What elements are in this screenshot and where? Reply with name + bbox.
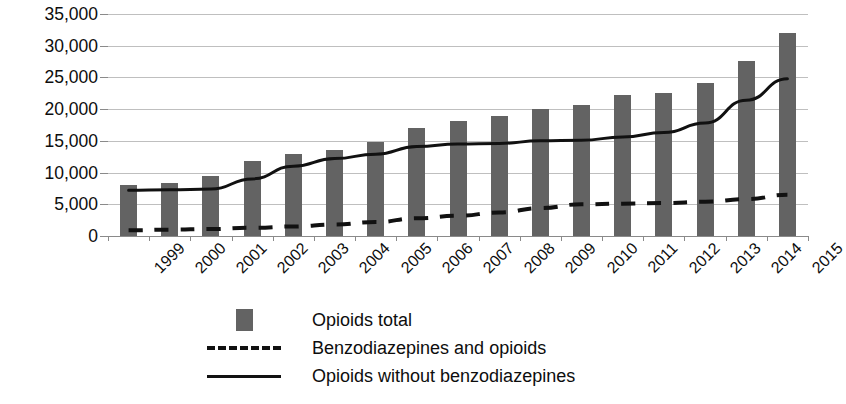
line-opioids-without-benzodiazepines [129, 79, 788, 191]
y-tick-label-25000: 25,000 [0, 68, 98, 86]
x-label-2001: 2001 [233, 240, 269, 276]
x-label-2006: 2006 [439, 240, 475, 276]
y-tick-mark-25000 [100, 77, 108, 78]
y-tick-mark-20000 [100, 109, 108, 110]
y-tick-label-15000: 15,000 [0, 132, 98, 150]
x-label-2005: 2005 [398, 240, 434, 276]
x-label-2002: 2002 [275, 240, 311, 276]
y-tick-label-5000: 5,000 [0, 195, 98, 213]
x-axis-labels: 1999200020012002200320042005200620072008… [108, 238, 808, 294]
x-label-2012: 2012 [686, 240, 722, 276]
y-tick-label-35000: 35,000 [0, 5, 98, 23]
legend-item-benzodiazepines-and-opioids: Benzodiazepines and opioids [188, 334, 748, 362]
x-label-2004: 2004 [357, 240, 393, 276]
y-tick-mark-10000 [100, 173, 108, 174]
y-tick-label-30000: 30,000 [0, 37, 98, 55]
y-tick-mark-0 [100, 236, 108, 237]
legend-label-benzodiazepines-and-opioids: Benzodiazepines and opioids [300, 338, 546, 358]
x-label-2008: 2008 [522, 240, 558, 276]
legend-item-opioids-total: Opioids total [188, 306, 748, 334]
legend-label-opioids-without-benzodiazepines: Opioids without benzodiazepines [300, 366, 575, 386]
y-tick-mark-30000 [100, 46, 108, 47]
dashed-line-icon [188, 346, 300, 350]
y-tick-mark-5000 [100, 204, 108, 205]
line-series-overlay [108, 14, 808, 236]
plot-area [108, 14, 808, 236]
y-tick-mark-35000 [100, 14, 108, 15]
x-label-1999: 1999 [151, 240, 187, 276]
solid-line-icon [188, 375, 300, 378]
chart-legend: Opioids total Benzodiazepines and opioid… [188, 306, 748, 390]
y-tick-label-10000: 10,000 [0, 164, 98, 182]
y-tick-label-0: 0 [0, 227, 98, 245]
gridline-0 [108, 236, 808, 237]
x-label-2010: 2010 [604, 240, 640, 276]
x-label-2009: 2009 [563, 240, 599, 276]
bar-swatch-icon [188, 309, 300, 331]
x-label-2013: 2013 [727, 240, 763, 276]
x-label-2007: 2007 [480, 240, 516, 276]
y-tick-label-20000: 20,000 [0, 100, 98, 118]
legend-label-opioids-total: Opioids total [300, 310, 412, 330]
x-label-2014: 2014 [769, 240, 805, 276]
legend-item-opioids-without-benzodiazepines: Opioids without benzodiazepines [188, 362, 748, 390]
y-tick-mark-15000 [100, 141, 108, 142]
x-tick-17 [808, 236, 809, 241]
x-label-2000: 2000 [192, 240, 228, 276]
x-label-2003: 2003 [316, 240, 352, 276]
x-label-2011: 2011 [645, 240, 681, 276]
line-benzodiazepines-and-opioids [129, 195, 788, 231]
x-label-2015: 2015 [810, 240, 846, 276]
